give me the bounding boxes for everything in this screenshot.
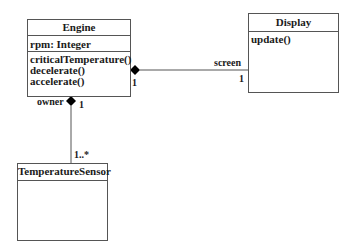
composition-diamond-icon bbox=[66, 96, 76, 106]
operation: update() bbox=[251, 34, 336, 45]
operation: accelerate() bbox=[30, 76, 128, 87]
multiplicity-label: 1..* bbox=[74, 150, 89, 160]
operations-section: criticalTemperature() decelerate() accel… bbox=[28, 52, 130, 89]
class-name: Display bbox=[249, 14, 338, 32]
multiplicity-label: 1 bbox=[79, 100, 84, 110]
class-name: TemperatureSensor bbox=[18, 164, 107, 181]
attribute: rpm: Integer bbox=[30, 38, 128, 50]
role-label: screen bbox=[214, 58, 241, 68]
composition-diamond-icon bbox=[130, 65, 140, 75]
class-temperature-sensor[interactable]: TemperatureSensor bbox=[17, 163, 108, 241]
class-engine[interactable]: Engine rpm: Integer criticalTemperature(… bbox=[27, 19, 131, 97]
multiplicity-label: 1 bbox=[239, 74, 244, 84]
operations-section: update() bbox=[249, 32, 338, 47]
role-label: owner bbox=[37, 97, 64, 107]
class-display[interactable]: Display update() bbox=[248, 13, 339, 93]
class-name: Engine bbox=[28, 20, 130, 36]
attributes-section: rpm: Integer bbox=[28, 36, 130, 52]
multiplicity-label: 1 bbox=[132, 78, 137, 88]
